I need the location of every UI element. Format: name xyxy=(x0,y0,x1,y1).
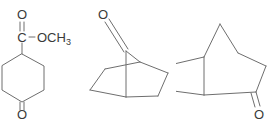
cyclohexane-ring xyxy=(2,54,44,102)
structure-bicycloheptan-7-one: O xyxy=(85,0,178,119)
bond-c7-to-bridgehead-front xyxy=(204,24,220,57)
bond-ketone-a xyxy=(256,92,260,106)
bond-front-c1-c2 xyxy=(176,57,204,64)
bond-c7-to-bridgehead-rear xyxy=(126,51,140,62)
label-ketone-oxygen: O xyxy=(254,107,264,119)
label-methoxy-group: OCH3 xyxy=(37,30,71,47)
bond-rear-c4-bridgehead xyxy=(204,92,256,95)
label-ester-carbon: C xyxy=(17,30,26,45)
bond-rear-c1-c6 xyxy=(140,62,168,73)
structure-canvas: O C OCH3 O xyxy=(0,0,272,119)
bond-c7-to-bridgehead-rear xyxy=(220,24,238,53)
label-methoxy-subscript: 3 xyxy=(66,37,71,47)
structure-3-drawing: O xyxy=(176,0,272,119)
label-methoxy-text: OCH xyxy=(37,30,66,45)
bond-front-c2-c3 xyxy=(90,69,105,90)
bond-front-c1-c2 xyxy=(105,62,140,69)
structure-1-drawing: O C OCH3 O xyxy=(0,0,91,119)
label-bridge-ketone-oxygen: O xyxy=(98,7,108,22)
bond-ketone-b xyxy=(251,93,255,107)
bond-rear-c6-c5 xyxy=(238,53,266,66)
bond-rear-c5-c4 xyxy=(256,66,266,92)
bond-rear-c6-c5 xyxy=(158,73,168,96)
structure-bicycloheptan-2-one: O xyxy=(176,0,272,119)
structure-2-drawing: O xyxy=(85,0,178,119)
bond-bridge-carbonyl-a xyxy=(105,22,124,52)
bond-front-c3-c4 xyxy=(176,90,204,95)
bond-front-c3-c4 xyxy=(90,90,126,97)
bond-bridge-carbonyl-b xyxy=(109,19,128,49)
label-carbonyl-oxygen: O xyxy=(17,7,27,22)
structure-methyl-4-oxocyclohexanecarboxylate: O C OCH3 O xyxy=(0,0,91,119)
bond-rear-c5-c4 xyxy=(126,96,158,97)
label-ketone-oxygen: O xyxy=(17,107,27,119)
